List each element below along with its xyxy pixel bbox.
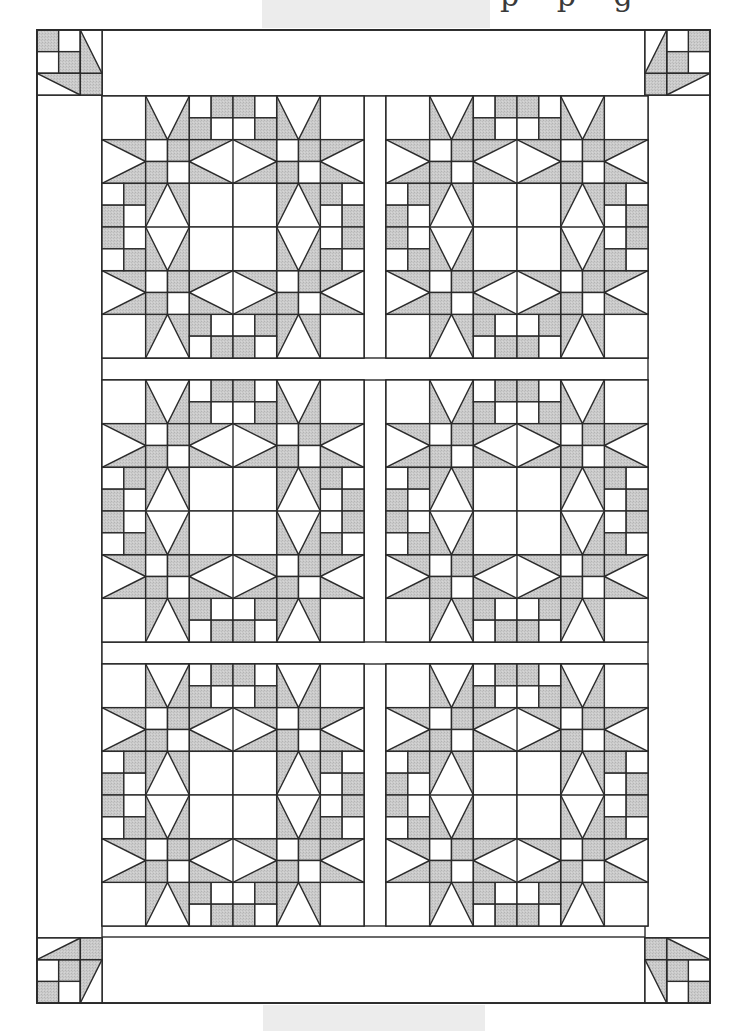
checker-square [667, 30, 689, 52]
star-center [146, 271, 190, 315]
checker-square [320, 533, 342, 555]
checker-square [517, 882, 539, 904]
checker-square [320, 795, 342, 817]
checker-square [473, 118, 495, 140]
star-point [386, 708, 430, 752]
checker-square [604, 533, 626, 555]
checker-square [320, 183, 342, 205]
checker-square [342, 227, 364, 249]
star-corner-square [386, 664, 430, 708]
checker-square [604, 489, 626, 511]
checker-square [604, 751, 626, 773]
star-corner-square [604, 664, 648, 708]
corner-four-patch [37, 960, 80, 1003]
checker-square [299, 424, 321, 446]
checker-square [189, 598, 211, 620]
checker-square [102, 227, 124, 249]
checker-square [452, 271, 474, 293]
corner-four-patch [667, 960, 710, 1003]
checker-square [277, 577, 299, 599]
star-point [102, 424, 146, 468]
checker-square [517, 402, 539, 424]
star-center [146, 140, 190, 184]
checker-square [146, 140, 168, 162]
checker-square [299, 839, 321, 861]
star-corner-square [320, 882, 364, 926]
checker-square [233, 314, 255, 336]
checker-square [146, 839, 168, 861]
checker-square [495, 336, 517, 358]
block-center [189, 183, 276, 270]
checker-square [320, 489, 342, 511]
center-square [189, 511, 233, 555]
star-corner-square [604, 96, 648, 140]
diamond-unit [189, 140, 276, 184]
checker-square [189, 314, 211, 336]
border-strip-top [102, 30, 645, 96]
checker-square [277, 555, 299, 577]
star-point [102, 271, 146, 315]
checker-square [473, 686, 495, 708]
star-center [561, 424, 605, 468]
checker-square [604, 817, 626, 839]
checker-square [233, 882, 255, 904]
checker-square [277, 730, 299, 752]
star-center [277, 271, 321, 315]
checker-square [168, 839, 190, 861]
checker-square [320, 817, 342, 839]
checker-square [124, 511, 146, 533]
star-point [146, 314, 190, 358]
border-strip-right [645, 95, 710, 938]
quilt-diagram [0, 0, 741, 1031]
star-center [430, 424, 474, 468]
checker-square [561, 577, 583, 599]
star-point [102, 140, 146, 184]
star-point [320, 271, 364, 315]
star-point [386, 424, 430, 468]
checker-square [688, 981, 710, 1003]
star-point [430, 96, 474, 140]
star-corner-square [386, 96, 430, 140]
diamond-unit [146, 467, 190, 554]
diamond-unit [430, 467, 474, 554]
diamond-unit [473, 271, 560, 315]
star-corner-square [604, 314, 648, 358]
checker-square [430, 708, 452, 730]
diamond-unit [277, 183, 321, 270]
star-point [277, 96, 321, 140]
checker-square [255, 402, 277, 424]
checker-square [688, 52, 710, 74]
star-corner-square [320, 380, 364, 424]
star-point [430, 314, 474, 358]
checker-square [233, 904, 255, 926]
star-point [604, 708, 648, 752]
checker-square [430, 424, 452, 446]
right-checker-strip [604, 467, 648, 554]
diamond-unit [146, 183, 190, 270]
checker-square [583, 446, 605, 468]
checker-square [667, 960, 689, 982]
checker-square [299, 555, 321, 577]
center-square [189, 227, 233, 271]
checker-square [539, 598, 561, 620]
checker-square [539, 882, 561, 904]
checker-square [255, 598, 277, 620]
checker-square [233, 380, 255, 402]
checker-square [473, 904, 495, 926]
checker-square [473, 664, 495, 686]
star-center [430, 708, 474, 752]
checker-square [211, 402, 233, 424]
checker-square [233, 686, 255, 708]
quilt-block [386, 96, 648, 358]
center-square [233, 511, 277, 555]
center-square [517, 227, 561, 271]
star-center [277, 555, 321, 599]
checker-square [626, 249, 648, 271]
star-center [146, 839, 190, 883]
center-square [189, 467, 233, 511]
top-checker-strip [473, 664, 560, 708]
checker-square [473, 380, 495, 402]
checker-square [342, 795, 364, 817]
quilt-block [102, 96, 364, 358]
star-center [277, 140, 321, 184]
